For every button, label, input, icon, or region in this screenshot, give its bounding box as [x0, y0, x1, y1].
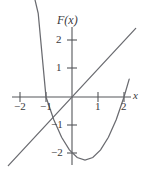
- y-tick-label-plus-two: 2: [56, 34, 62, 45]
- x-axis-label: x: [133, 90, 138, 101]
- y-tick-label-minus-two: −2: [51, 147, 63, 158]
- x-tick-label-plus-one: 1: [95, 101, 101, 112]
- x-tick-label-minus-one: −1: [40, 101, 52, 112]
- graph-figure: F(x) x −2 −1 1 2 2 1 −1 −2: [0, 0, 147, 171]
- x-tick-label-minus-two: −2: [14, 101, 26, 112]
- x-tick-label-plus-two: 2: [121, 101, 127, 112]
- y-tick-label-minus-one: −1: [51, 119, 63, 130]
- function-title-label: F(x): [57, 14, 78, 26]
- y-tick-label-plus-one: 1: [56, 62, 62, 73]
